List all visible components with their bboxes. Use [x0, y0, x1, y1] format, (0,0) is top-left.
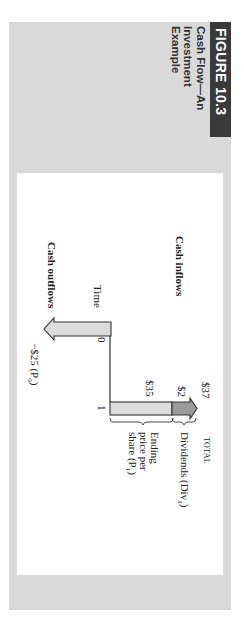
cash-inflows-label: Cash inflows — [174, 236, 186, 296]
cash-outflows-label: Cash outflows — [46, 242, 58, 308]
ending-price-label: Ending price per share (P1) — [122, 432, 160, 475]
dividend-brace-icon — [172, 418, 196, 425]
time-tick-0: 0 — [96, 337, 108, 343]
inflow-total-label: TOTAL — [202, 437, 211, 464]
dividend-value: $2 — [176, 386, 188, 397]
figure-canvas: FIGURE 10.3 Cash Flow—An Investment Exam… — [0, 0, 244, 620]
ending-price-value: $35 — [144, 380, 156, 397]
outflow-value: −$25 (P0) — [26, 343, 41, 385]
inflow-total-value: $37 — [200, 382, 212, 399]
dividend-label: Dividends (Div1) — [176, 432, 191, 507]
cash-flow-diagram — [0, 0, 244, 620]
time-tick-1: 1 — [96, 405, 108, 411]
time-axis-label: Time — [92, 285, 104, 308]
price-brace-icon — [110, 418, 173, 425]
inflow-price-segment — [110, 402, 172, 415]
inflow-dividend-arrow-icon — [172, 398, 197, 419]
